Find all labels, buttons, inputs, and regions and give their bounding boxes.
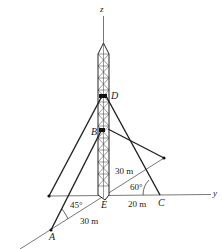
point-label-e: E [100, 199, 107, 210]
cable-b-right [108, 129, 164, 158]
angle-label-c: 60° [130, 182, 143, 192]
cable-d-c [106, 96, 160, 195]
point-label-c: C [158, 197, 165, 208]
point-label-b: B [91, 126, 97, 137]
tower [98, 43, 109, 200]
dimension-ea: 30 m [80, 216, 98, 226]
y-axis-label: y [212, 188, 217, 198]
diagram-canvas: z y [0, 0, 223, 249]
angle-arc-a [62, 209, 68, 219]
dimension-e-right: 30 m [115, 166, 133, 176]
y-axis [49, 195, 211, 197]
point-label-d: D [110, 90, 119, 101]
tower-diagram: z y [0, 0, 223, 249]
angle-label-a: 45° [70, 200, 83, 210]
dimension-ec: 20 m [128, 199, 146, 209]
z-axis-label: z [99, 4, 104, 14]
point-label-a: A [48, 231, 56, 242]
angle-arc-c [143, 180, 149, 195]
